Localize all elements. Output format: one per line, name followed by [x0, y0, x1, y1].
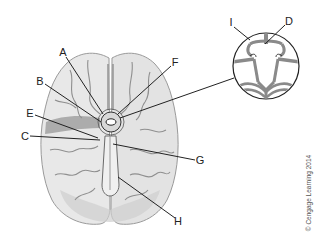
label-H: H [174, 216, 182, 227]
diagram-canvas [0, 0, 328, 242]
label-A: A [59, 47, 66, 58]
label-E: E [26, 108, 33, 119]
brain-diagram: A B E C F G H I D © Cengage Learning 201… [0, 0, 328, 242]
label-I: I [229, 17, 232, 28]
copyright-notice: © Cengage Learning 2014 [305, 155, 312, 231]
label-F: F [172, 57, 179, 68]
label-C: C [21, 131, 29, 142]
label-B: B [36, 76, 43, 87]
label-D: D [285, 16, 293, 27]
label-G: G [196, 155, 205, 166]
leader-line-I [234, 27, 250, 40]
